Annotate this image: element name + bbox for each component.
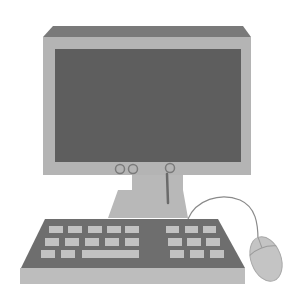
key[interactable] [105, 238, 119, 246]
key[interactable] [187, 238, 201, 246]
key[interactable] [210, 250, 224, 258]
key[interactable] [170, 250, 184, 258]
key[interactable] [125, 238, 139, 246]
mouse[interactable] [244, 232, 288, 285]
monitor-stand [108, 174, 188, 218]
key[interactable] [125, 226, 139, 233]
numpad-row-3 [170, 250, 224, 258]
stand-neck [108, 175, 188, 218]
power-cord [167, 174, 168, 203]
key[interactable] [203, 226, 216, 233]
key[interactable] [45, 238, 59, 246]
keyboard-front-edge [20, 268, 245, 284]
monitor-screen [55, 49, 241, 162]
computer-illustration: Grayscale illustration of a desktop comp… [0, 0, 308, 301]
key[interactable] [88, 226, 102, 233]
monitor [43, 26, 251, 175]
key[interactable] [61, 250, 75, 258]
key[interactable] [49, 226, 63, 233]
key[interactable] [65, 238, 79, 246]
key[interactable] [68, 226, 82, 233]
key[interactable] [85, 238, 99, 246]
keyboard[interactable] [20, 219, 245, 284]
numpad-row-2 [168, 238, 220, 246]
key[interactable] [206, 238, 220, 246]
spacebar-key[interactable] [82, 250, 139, 258]
key[interactable] [107, 226, 121, 233]
key[interactable] [166, 226, 179, 233]
numpad-row-1 [166, 226, 216, 233]
monitor-top-edge [43, 26, 251, 37]
mouse-body [244, 232, 288, 285]
key-row-1 [49, 226, 139, 233]
key[interactable] [190, 250, 204, 258]
key[interactable] [168, 238, 182, 246]
key[interactable] [185, 226, 198, 233]
key[interactable] [41, 250, 55, 258]
